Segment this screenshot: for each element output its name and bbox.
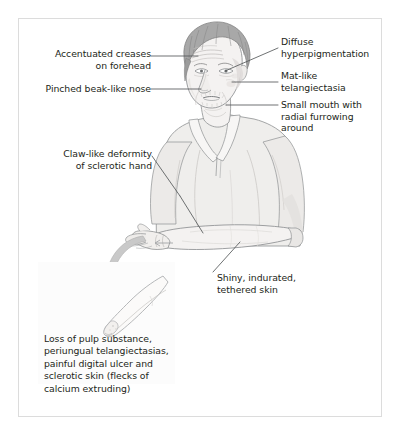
leader-hand [152,156,180,196]
leader-hand-2 [180,196,203,233]
label-small-mouth: Small mouth with radial furrowing around [281,99,391,134]
label-diffuse-hyperpigmentation: Diffuse hyperpigmentation [281,36,391,59]
label-pinched-nose: Pinched beak-like nose [20,83,151,95]
figure-container: Accentuated creases on forehead Pinched … [0,0,400,440]
label-mat-like-telangiectasia: Mat-like telangiectasia [281,70,391,93]
inset-caption: Loss of pulp substance, periungual telan… [44,333,174,395]
leader-hyperpigmentation [225,48,278,71]
label-claw-deformity: Claw-like deformity of sclerotic hand [28,148,152,171]
label-accentuated-creases: Accentuated creases on forehead [28,48,151,71]
label-shiny-indurated-skin: Shiny, indurated, tethered skin [217,272,327,295]
leader-skin [213,242,240,272]
